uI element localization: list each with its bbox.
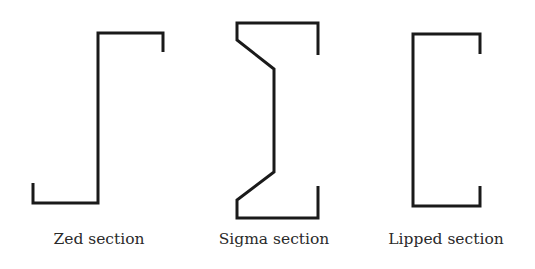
zed-section-label: Zed section [53, 230, 144, 248]
sigma-section-shape [237, 23, 318, 218]
zed-section-shape [33, 33, 163, 203]
lipped-section-label: Lipped section [388, 230, 503, 248]
sigma-section-label: Sigma section [219, 230, 330, 248]
lipped-section-shape [413, 34, 480, 206]
sections-diagram [0, 0, 535, 269]
